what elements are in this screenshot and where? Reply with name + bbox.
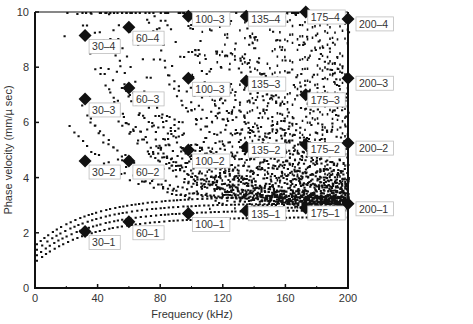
mode-label: 135–2 [251, 144, 280, 156]
y-tick-label: 4 [23, 172, 29, 184]
x-tick-label: 160 [276, 292, 294, 304]
mode-label: 30–3 [92, 104, 116, 116]
x-tick-label: 80 [154, 292, 166, 304]
mode-marker: 200–4 [342, 12, 394, 31]
mode-marker: 100–2 [182, 144, 230, 169]
mode-label: 135–4 [251, 13, 280, 25]
mode-label: 200–1 [359, 203, 388, 215]
mode-marker: 100–3 [182, 72, 230, 97]
y-tick-label: 0 [23, 282, 29, 294]
mode-label: 135–1 [251, 208, 280, 220]
diamond-icon [342, 72, 355, 85]
x-tick-label: 120 [214, 292, 232, 304]
mode-label: 100–3 [195, 13, 224, 25]
mode-label: 135–3 [251, 78, 280, 90]
mode-marker: 135–3 [240, 75, 286, 92]
mode-label: 60–2 [136, 166, 160, 178]
mode-marker: 175–2 [299, 138, 345, 157]
mode-label: 200–4 [359, 18, 388, 30]
y-tick-label: 10 [17, 6, 29, 18]
y-tick-label: 2 [23, 227, 29, 239]
mode-marker: 200–2 [342, 137, 394, 156]
mode-marker: 175–3 [299, 88, 345, 107]
mode-label: 100–2 [195, 155, 224, 167]
mode-label: 30–2 [92, 166, 116, 178]
mode-marker: 100–3 [182, 10, 230, 27]
mode-label: 30–4 [92, 40, 116, 52]
mode-marker: 30–1 [79, 225, 121, 250]
mode-label: 200–3 [359, 77, 388, 89]
x-axis-title: Frequency (kHz) [151, 308, 232, 320]
mode-label: 60–3 [136, 93, 160, 105]
mode-marker: 60–1 [122, 215, 164, 240]
mode-marker: 60–2 [122, 155, 164, 180]
mode-marker: 30–2 [79, 155, 121, 180]
mode-label: 60–1 [136, 227, 160, 239]
y-tick-label: 8 [23, 61, 29, 73]
mode-marker: 135–4 [240, 10, 286, 27]
x-tick-label: 0 [32, 292, 38, 304]
y-axis-title: Phase velocity (mm/µ sec) [2, 85, 14, 214]
mode-marker: 30–3 [79, 92, 121, 117]
x-tick-label: 40 [91, 292, 103, 304]
mode-marker: 100–1 [182, 207, 230, 232]
mode-label: 30–1 [92, 236, 116, 248]
mode-label: 100–1 [195, 218, 224, 230]
mode-marker: 175–4 [299, 6, 345, 25]
mode-label: 175–1 [311, 207, 340, 219]
mode-marker: 135–2 [240, 141, 286, 158]
mode-label: 60–4 [136, 32, 160, 44]
y-tick-label: 6 [23, 116, 29, 128]
mode-marker: 200–1 [342, 197, 394, 216]
mode-label: 175–2 [311, 143, 340, 155]
mode-marker: 60–3 [122, 81, 164, 106]
mode-label: 100–3 [195, 83, 224, 95]
mode-marker: 60–4 [122, 21, 164, 46]
mode-marker: 200–3 [342, 72, 394, 91]
mode-label: 175–3 [311, 94, 340, 106]
x-tick-label: 200 [339, 292, 357, 304]
mode-label: 200–2 [359, 142, 388, 154]
dispersion-chart: 040801201602000246810 30–130–230–330–460… [0, 0, 473, 324]
mode-label: 175–4 [311, 11, 340, 23]
